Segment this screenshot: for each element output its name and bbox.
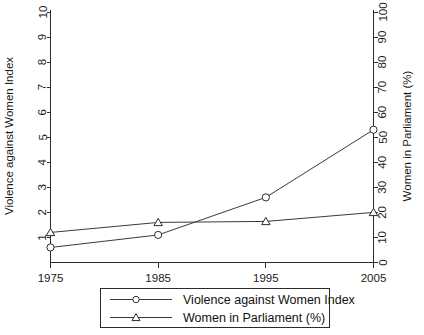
series-parliament [46, 208, 377, 235]
legend-label-violence: Violence against Women Index [183, 293, 356, 307]
left-tick-label: 2 [37, 209, 49, 215]
right-tick-label: 0 [377, 259, 389, 265]
right-tick-label: 70 [377, 81, 389, 94]
line-chart-svg: 12345678910 0102030405060708090100 19751… [0, 0, 424, 335]
left-tick-label: 7 [37, 84, 49, 90]
x-tick-label: 1975 [38, 272, 64, 284]
series-line-0 [51, 130, 374, 248]
legend-label-parliament: Women in Parliament (%) [183, 311, 325, 325]
left-tick-label: 8 [37, 59, 49, 65]
legend-circle-icon [133, 296, 139, 302]
chart-legend: Violence against Women Index Women in Pa… [101, 289, 356, 328]
right-tick-label: 30 [377, 181, 389, 194]
left-tick-label: 5 [37, 134, 49, 140]
right-tick-label: 90 [377, 31, 389, 44]
left-tick-label: 4 [37, 159, 49, 166]
x-tick-label: 1985 [145, 272, 171, 284]
series-line-1 [51, 212, 374, 232]
right-tick-label: 80 [377, 56, 389, 69]
data-point-circle [47, 244, 54, 251]
right-tick-label: 40 [377, 156, 389, 169]
left-tick-label: 10 [37, 6, 49, 19]
right-tick-label: 10 [377, 231, 389, 244]
right-tick-label: 50 [377, 131, 389, 144]
left-tick-label: 6 [37, 109, 49, 115]
left-tick-label: 3 [37, 184, 49, 190]
x-tick-label: 2005 [361, 272, 387, 284]
data-point-circle [370, 126, 377, 133]
data-series-layer [46, 126, 377, 251]
right-tick-label: 100 [377, 2, 389, 21]
plot-axes [51, 10, 374, 263]
left-axis-title: Violence against Women Index [3, 57, 15, 215]
data-point-circle [155, 231, 162, 238]
left-axis-ticks: 12345678910 [37, 6, 51, 241]
right-axis-title: Women in Parliament (%) [401, 70, 413, 201]
right-tick-label: 20 [377, 206, 389, 219]
left-tick-label: 9 [37, 34, 49, 40]
right-tick-label: 60 [377, 106, 389, 119]
chart-figure: 12345678910 0102030405060708090100 19751… [0, 0, 424, 335]
x-tick-label: 1995 [253, 272, 279, 284]
x-axis-ticks: 1975198519952005 [38, 263, 387, 284]
right-axis-ticks: 0102030405060708090100 [374, 2, 389, 265]
data-point-circle [262, 194, 269, 201]
series-violence [47, 126, 377, 251]
